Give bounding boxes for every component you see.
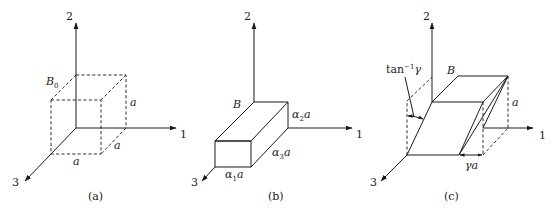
axis-label-2: 2 [244,10,251,23]
body-label-b: B [232,98,241,111]
edge-label-alpha1a: α1a [225,168,243,183]
angle-label-arctan-gamma: tan−1γ [386,63,421,76]
axis-label-1: 1 [180,128,187,141]
edge-label-vertical: a [130,96,137,109]
panel-a: 2 1 3 B0 a a a (a) [12,10,187,203]
axis-3-arrow [202,167,215,181]
edge-label-width: a [73,155,80,168]
edge-label-alpha2a: α2a [292,108,310,123]
original-cube-outline [407,76,508,155]
axis-label-3: 3 [191,176,198,189]
axis-label-3: 3 [12,176,19,189]
axis-label-2: 2 [423,10,430,23]
angle-leader-line [405,77,414,117]
panel-b: 2 1 3 B α2a α3a α1a (b) [191,10,363,203]
body-label-b: B [446,64,455,77]
shear-angle-arc [408,116,423,119]
axis-label-3: 3 [370,176,377,189]
edge-label-gamma-a: γa [465,159,478,172]
axis-label-1: 1 [356,128,363,141]
caption-b: (b) [268,190,284,203]
axis-3-arrow [381,155,407,181]
edge-label-height: a [512,96,519,109]
axis-3-arrow [25,128,76,181]
axis-label-2: 2 [66,10,73,23]
caption-a: (a) [88,190,103,203]
edge-label-alpha3a: α3a [272,146,290,161]
edge-label-depth: a [114,139,121,152]
deformation-diagram: 2 1 3 B0 a a a (a) 2 1 3 B α2a α3a α1a [0,0,552,212]
sheared-body [407,76,508,155]
panel-c: 2 1 3 B tan−1γ a γa (c) [370,10,546,203]
axis-label-1: 1 [539,129,546,142]
body-label-b0: B0 [45,75,59,90]
caption-c: (c) [444,190,459,203]
